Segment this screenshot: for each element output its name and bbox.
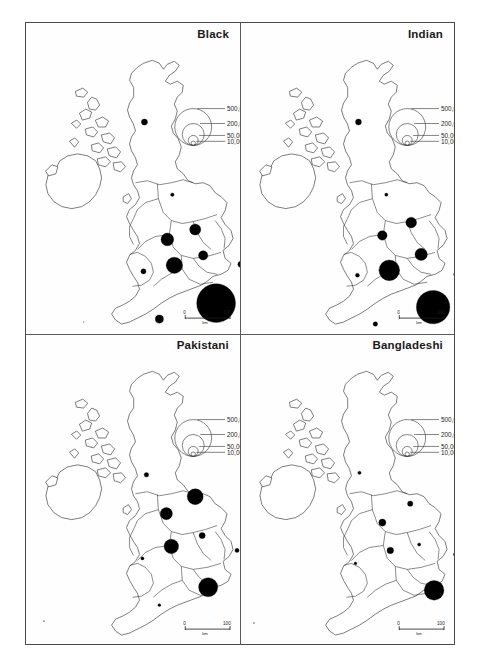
map-graphic-black: 500,000 200,000 50,000 10,000 0 100 km <box>26 23 240 334</box>
legend-black: 500,000 200,000 50,000 10,000 <box>175 105 240 146</box>
symbol-yorkshire <box>190 224 201 235</box>
legend-circle-50000 <box>188 135 198 145</box>
symbol-greater-manchester <box>160 507 172 519</box>
scalebar-pakistani: 0 100 km <box>183 620 231 635</box>
symbol-yorkshire <box>406 217 417 228</box>
symbol-london <box>424 580 444 600</box>
map-graphic-pakistani: 500,000 200,000 50,000 10,000 0 100 km <box>26 334 240 645</box>
legend-indian: 500,000 200,000 50,000 10,000 <box>389 105 454 146</box>
figure-frame: 500,000 200,000 50,000 10,000 0 100 km B… <box>25 22 455 645</box>
symbol-east-anglia <box>235 548 239 552</box>
legend-circle-200000 <box>182 124 204 146</box>
symbol-east-midlands <box>418 542 421 545</box>
scalebar-start-label: 0 <box>397 310 400 315</box>
legend-circle-10000 <box>191 141 195 145</box>
symbol-east-midlands <box>199 532 205 538</box>
legend-label-10000: 10,000 <box>441 138 454 145</box>
map-graphic-indian: 500,000 200,000 50,000 10,000 0 100 km <box>240 23 454 334</box>
symbol-south-west <box>158 603 161 606</box>
legend-circle-50000 <box>402 135 412 145</box>
legend-circle-50000 <box>402 446 412 456</box>
symbol-west-midlands <box>166 257 182 273</box>
legend-circle-500000 <box>389 419 426 456</box>
legend-label-10000: 10,000 <box>441 448 454 455</box>
basemap-outline <box>260 371 447 635</box>
legend-label-500000: 500,000 <box>441 105 454 112</box>
scalebar-end-label: 100 <box>437 620 445 625</box>
legend-circle-200000 <box>396 124 418 146</box>
scalebar-unit-label: km <box>416 631 422 636</box>
scalebar-unit-label: km <box>202 320 208 325</box>
panel-title-pakistani: Pakistani <box>177 339 229 351</box>
legend-circle-10000 <box>405 452 409 456</box>
scalebar-start-label: 0 <box>183 310 186 315</box>
legend-label-500000: 500,000 <box>227 105 240 112</box>
symbol-east-midlands <box>198 251 207 260</box>
scalebar-unit-label: km <box>202 631 208 636</box>
panel-title-black: Black <box>197 28 229 40</box>
map-panel-black[interactable]: 500,000 200,000 50,000 10,000 0 100 km B… <box>26 23 240 334</box>
legend-label-200000: 200,000 <box>441 430 454 437</box>
symbol-central-scotland <box>355 119 361 125</box>
symbol-north-east <box>171 193 175 197</box>
symbol-wales <box>141 556 144 559</box>
map-panel-bangladeshi[interactable]: 500,000 200,000 50,000 10,000 0 100 km B… <box>240 334 454 645</box>
map-graphic-bangladeshi: 500,000 200,000 50,000 10,000 0 100 km <box>240 334 454 645</box>
legend-circle-200000 <box>396 434 418 456</box>
scalebar-bangladeshi: 0 100 km <box>397 620 445 635</box>
legend-label-500000: 500,000 <box>441 415 454 422</box>
legend-label-200000: 200,000 <box>227 120 240 127</box>
scalebar-unit-label: km <box>416 320 422 325</box>
legend-circle-10000 <box>191 452 195 456</box>
panel-title-indian: Indian <box>408 28 443 40</box>
legend-label-200000: 200,000 <box>227 430 240 437</box>
scalebar-start-label: 0 <box>183 620 186 625</box>
scalebar-start-label: 0 <box>397 620 400 625</box>
legend-label-10000: 10,000 <box>227 138 240 145</box>
legend-circle-200000 <box>182 434 204 456</box>
symbol-wales <box>141 269 146 274</box>
legend-label-500000: 500,000 <box>227 415 240 422</box>
symbol-wales <box>355 273 359 277</box>
symbol-greater-manchester <box>161 233 174 246</box>
symbol-central-scotland <box>141 119 147 125</box>
legend-label-200000: 200,000 <box>441 120 454 127</box>
symbol-greater-manchester <box>378 231 388 241</box>
legend-circle-500000 <box>389 109 426 146</box>
symbol-london <box>416 290 449 323</box>
symbol-south-west <box>373 322 378 327</box>
legend-circle-500000 <box>175 419 212 456</box>
symbol-london <box>199 577 218 596</box>
symbol-south-west <box>155 315 163 323</box>
symbol-east-anglia <box>453 552 454 555</box>
basemap-outline <box>260 60 447 324</box>
symbol-west-midlands <box>164 539 179 554</box>
scan-speck <box>83 321 84 322</box>
symbol-greater-manchester <box>379 519 386 526</box>
symbol-central-scotland <box>358 471 361 474</box>
legend-label-10000: 10,000 <box>227 448 240 455</box>
symbol-wales <box>354 562 357 565</box>
symbol-west-midlands <box>387 547 394 554</box>
symbol-yorkshire <box>187 488 203 504</box>
map-panel-indian[interactable]: 500,000 200,000 50,000 10,000 0 100 km I… <box>240 23 454 334</box>
legend-circle-50000 <box>188 446 198 456</box>
legend-bangladeshi: 500,000 200,000 50,000 10,000 <box>389 415 454 456</box>
scalebar-end-label: 100 <box>223 620 231 625</box>
legend-circle-500000 <box>175 109 212 146</box>
legend-pakistani: 500,000 200,000 50,000 10,000 <box>175 415 240 456</box>
legend-circle-10000 <box>405 141 409 145</box>
scalebar-end-label: 100 <box>223 310 231 315</box>
panel-title-bangladeshi: Bangladeshi <box>372 339 443 351</box>
basemap-outline <box>46 60 233 324</box>
scan-speck <box>253 622 255 624</box>
symbol-north-east <box>385 193 388 196</box>
symbol-central-scotland <box>144 472 149 477</box>
symbol-yorkshire <box>408 500 413 505</box>
symbol-east-midlands <box>415 248 427 260</box>
scan-speck <box>43 620 45 622</box>
map-panel-pakistani[interactable]: 500,000 200,000 50,000 10,000 0 100 km P… <box>26 334 240 645</box>
scalebar-end-label: 100 <box>437 310 445 315</box>
symbol-west-midlands <box>379 260 400 281</box>
